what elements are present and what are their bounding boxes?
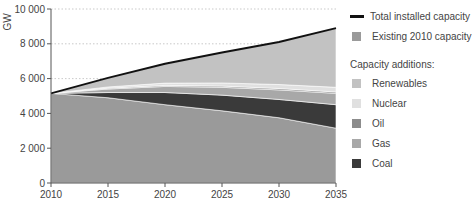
area-layers bbox=[51, 28, 336, 183]
x-tick-label: 2015 bbox=[97, 189, 120, 200]
legend-item-total: Total installed capacity bbox=[350, 6, 472, 26]
x-tick-label: 2020 bbox=[154, 189, 177, 200]
legend-label: Oil bbox=[372, 118, 384, 129]
legend-heading: Capacity additions: bbox=[350, 46, 472, 73]
y-tick-label: 10 000 bbox=[14, 4, 45, 15]
y-tick-label: 0 bbox=[39, 178, 45, 189]
legend-label: Total installed capacity bbox=[370, 11, 470, 22]
swatch-icon bbox=[352, 32, 361, 41]
legend-label: Coal bbox=[372, 158, 393, 169]
legend-item-existing: Existing 2010 capacity bbox=[350, 26, 472, 46]
swatch-icon bbox=[352, 139, 361, 148]
x-tick-label: 2035 bbox=[325, 189, 348, 200]
swatch-icon bbox=[352, 119, 361, 128]
legend: Total installed capacity Existing 2010 c… bbox=[350, 6, 472, 173]
legend-label: Nuclear bbox=[372, 98, 406, 109]
legend-label: Existing 2010 capacity bbox=[372, 31, 472, 42]
legend-label: Gas bbox=[372, 138, 390, 149]
legend-item-gas: Gas bbox=[350, 133, 472, 153]
swatch-icon bbox=[352, 99, 361, 108]
y-tick-label: 8 000 bbox=[20, 38, 45, 49]
legend-item-oil: Oil bbox=[350, 113, 472, 133]
y-tick-label: 6 000 bbox=[20, 73, 45, 84]
y-tick-label: 2 000 bbox=[20, 143, 45, 154]
y-axis-label: GW bbox=[2, 13, 13, 31]
x-tick-label: 2025 bbox=[211, 189, 234, 200]
legend-item-coal: Coal bbox=[350, 153, 472, 173]
legend-item-renewables: Renewables bbox=[350, 73, 472, 93]
line-swatch-icon bbox=[350, 15, 364, 18]
swatch-icon bbox=[352, 159, 361, 168]
x-tick-label: 2010 bbox=[40, 189, 63, 200]
x-tick-label: 2030 bbox=[268, 189, 291, 200]
legend-item-nuclear: Nuclear bbox=[350, 93, 472, 113]
swatch-icon bbox=[352, 79, 361, 88]
y-tick-label: 4 000 bbox=[20, 108, 45, 119]
legend-label: Renewables bbox=[372, 78, 427, 89]
